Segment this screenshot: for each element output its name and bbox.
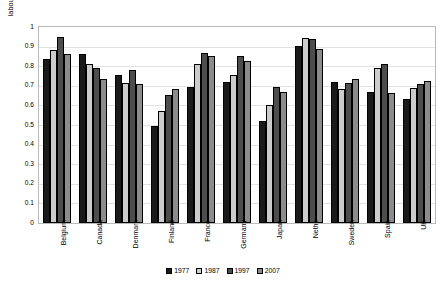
bar-group [183,27,219,223]
x-axis-label-japan: Japan [276,220,284,260]
x-axis-label-finland: Finland [168,220,176,260]
bar-neths-2007 [316,49,322,223]
y-axis-tick-label: 0.4 [25,140,34,147]
bar-belgium-1987 [50,50,56,223]
bar-group [255,27,291,223]
bar-japan-2007 [280,92,286,223]
bar-neths-1987 [302,38,308,223]
bar-group [111,27,147,223]
bar-sweden-1987 [338,89,344,223]
y-axis-tick-labels: 10.90.80.70.60.50.40.30.20.10 [0,26,36,224]
bar-group [399,27,435,223]
bar-canada-2007 [100,79,106,223]
bar-spain-1977 [367,92,373,223]
y-axis-tick-label: 0.2 [25,179,34,186]
legend-item-1977: 1977 [166,266,189,275]
x-axis-label-denmark: Denmark [132,220,140,260]
bar-finland-2007 [172,89,178,223]
bar-uk-1997 [417,84,423,223]
bar-france-1997 [201,53,207,223]
bar-france-2007 [208,56,214,223]
bar-canada-1977 [79,54,85,223]
bar-sweden-2007 [352,79,358,223]
bar-japan-1987 [266,105,272,223]
bar-uk-2007 [424,81,430,223]
bar-uk-1977 [403,99,409,223]
y-axis-tick-label: 0.3 [25,160,34,167]
x-axis-label-uk: UK [420,220,428,260]
bar-germany-1977 [223,82,229,223]
bar-finland-1977 [151,126,157,223]
bar-belgium-1997 [57,37,63,223]
y-axis-tick-label: 0.7 [25,81,34,88]
legend-label: 1977 [174,266,189,275]
legend-item-1997: 1997 [227,266,250,275]
bar-france-1977 [187,87,193,223]
y-axis-tick-label: 0.8 [25,62,34,69]
bar-denmark-2007 [136,84,142,223]
legend-item-2007: 2007 [257,266,280,275]
x-axis-label-neths: Neths [312,220,320,260]
bar-group [327,27,363,223]
legend-swatch-icon [227,268,233,274]
bar-germany-1997 [237,56,243,223]
x-axis-label-france: France [204,220,212,260]
bar-spain-1987 [374,68,380,223]
bar-denmark-1977 [115,75,121,223]
y-axis-tick-label: 0.1 [25,199,34,206]
bar-denmark-1997 [129,70,135,223]
bar-neths-1977 [295,46,301,223]
bar-finland-1987 [158,111,164,223]
legend-label: 1997 [235,266,250,275]
y-axis-tick-label: 0 [30,219,34,226]
bar-group [219,27,255,223]
x-axis-label-belgium: Belgium [60,220,68,260]
x-axis-label-canada: Canada [96,220,104,260]
bar-group [147,27,183,223]
legend-swatch-icon [196,268,202,274]
bar-sweden-1997 [345,83,351,223]
bars-layer [39,27,435,223]
x-axis-label-sweden: Sweden [348,220,356,260]
bar-group [75,27,111,223]
x-axis-category-labels: BelgiumCanadaDenmarkFinlandFranceGermany… [39,226,435,262]
bar-belgium-2007 [64,54,70,223]
bar-japan-1997 [273,87,279,223]
bar-uk-1987 [410,88,416,223]
bar-group [291,27,327,223]
bar-finland-1997 [165,95,171,223]
y-axis-tick-label: 0.6 [25,101,34,108]
bar-canada-1997 [93,68,99,223]
legend-swatch-icon [166,268,172,274]
y-axis-tick-label: 1 [30,23,34,30]
bar-spain-1997 [381,64,387,223]
bar-neths-1997 [309,39,315,223]
y-axis-tick-label: 0.5 [25,121,34,128]
bar-chart: labour productivity relative to the US 1… [0,0,446,288]
bar-denmark-1987 [122,83,128,223]
bar-group [39,27,75,223]
legend-item-1987: 1987 [196,266,219,275]
bar-belgium-1977 [43,59,49,223]
legend-label: 2007 [265,266,280,275]
legend-label: 1987 [204,266,219,275]
bar-sweden-1977 [331,82,337,223]
x-axis-label-germany: Germany [240,220,248,260]
x-axis-label-spain: Spain [384,220,392,260]
bar-spain-2007 [388,93,394,223]
chart-legend: 1977198719972007 [0,266,446,275]
bar-group [363,27,399,223]
bar-canada-1987 [86,64,92,223]
legend-swatch-icon [257,268,263,274]
bar-germany-2007 [244,61,250,223]
bar-japan-1977 [259,121,265,223]
bar-germany-1987 [230,75,236,223]
bar-france-1987 [194,64,200,223]
y-axis-tick-label: 0.9 [25,42,34,49]
